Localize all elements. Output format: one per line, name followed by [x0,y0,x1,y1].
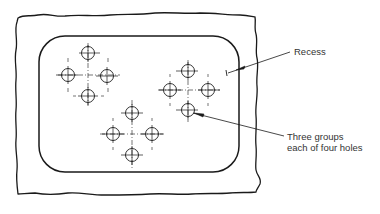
holes-label-line-1: Three groups [287,131,363,142]
holes-label: Three groups each of four holes [287,131,363,153]
hole [176,101,198,120]
recess-outline [39,36,239,172]
hole-group-2 [158,60,220,122]
hole [159,81,181,99]
drawing-svg [0,0,380,214]
hole [121,146,143,165]
hole [198,81,220,99]
holes-label-line-2: each of four holes [287,142,363,153]
hole [102,125,124,143]
recess-label: Recess [294,46,326,57]
hole [121,104,143,122]
hole [78,87,98,105]
hole [96,67,118,85]
diagram-canvas: Recess Three groups each of four holes [0,0,380,214]
hole [176,62,198,80]
hole-group-3 [100,100,164,168]
hole-group-1 [56,43,120,106]
hole [79,45,100,62]
hole [56,66,78,84]
hole [141,125,163,143]
